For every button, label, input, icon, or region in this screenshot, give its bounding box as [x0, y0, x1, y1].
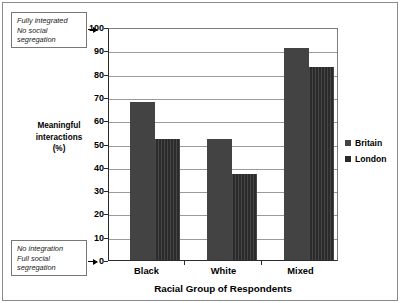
y-tick-label: 10 [80, 233, 104, 242]
chart-figure: Fully integrated No social segregation N… [0, 0, 400, 303]
bar-white-britain [207, 139, 232, 260]
y-tick-label: 50 [80, 140, 104, 149]
y-axis-tick-labels: 0 10 20 30 40 50 60 70 80 90 100 [76, 28, 104, 261]
legend: Britain London [345, 136, 387, 168]
y-tick-label: 0 [80, 257, 104, 266]
x-tick-mark [261, 261, 262, 265]
y-tick-label: 30 [80, 187, 104, 196]
x-category-label-mixed: Mixed [262, 266, 339, 277]
x-category-label-white: White [185, 266, 262, 277]
legend-label-britain: Britain [355, 139, 382, 148]
legend-label-london: London [355, 155, 387, 164]
y-tick-label: 20 [80, 210, 104, 219]
plot-area [108, 28, 338, 261]
y-tick-label: 70 [80, 93, 104, 102]
bar-mixed-britain [284, 48, 309, 260]
bar-black-britain [130, 102, 155, 260]
bar-black-london [155, 139, 180, 260]
x-tick-mark [184, 261, 185, 265]
legend-item-london: London [345, 152, 387, 166]
bar-white-london [232, 174, 257, 260]
y-tick-label: 40 [80, 163, 104, 172]
x-axis-title: Racial Group of Respondents [108, 283, 338, 294]
y-tick-label: 60 [80, 117, 104, 126]
legend-swatch-icon-london [345, 156, 351, 162]
y-tick-label: 100 [80, 24, 104, 33]
legend-swatch-icon-britain [345, 140, 351, 146]
x-category-label-black: Black [108, 266, 185, 277]
y-tick-label: 80 [80, 70, 104, 79]
legend-item-britain: Britain [345, 136, 387, 150]
bar-mixed-london [309, 67, 334, 260]
y-tick-label: 90 [80, 47, 104, 56]
y-tick-mark [104, 261, 108, 262]
